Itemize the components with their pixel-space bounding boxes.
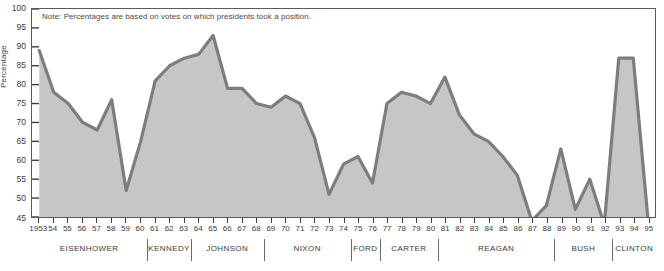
x-axis-tick-label-62: 62 — [165, 225, 174, 233]
y-axis-tick-label-80: 80 — [17, 80, 26, 89]
x-axis-tick-mark — [300, 218, 301, 223]
x-axis-tick-mark — [591, 218, 592, 223]
x-axis-tick-label-66: 66 — [223, 225, 232, 233]
president-term-divider — [612, 239, 613, 261]
president-label-bush: BUSH — [571, 244, 595, 253]
x-axis-tick-label-82: 82 — [455, 225, 464, 233]
x-axis-tick-mark — [373, 218, 374, 223]
x-axis-tick-mark — [634, 218, 635, 223]
x-axis-tick-mark — [67, 218, 68, 223]
x-axis-tick-label-64: 64 — [194, 225, 203, 233]
x-axis-tick-label-56: 56 — [77, 225, 86, 233]
president-label-johnson: JOHNSON — [206, 244, 248, 253]
y-axis-tick-label-70: 70 — [17, 118, 26, 127]
x-axis-tick-label-80: 80 — [426, 225, 435, 233]
y-axis-tick-label-75: 75 — [17, 99, 26, 108]
x-axis-tick-mark — [314, 218, 315, 223]
x-axis-tick-label-58: 58 — [106, 225, 115, 233]
x-axis-tick-mark — [518, 218, 519, 223]
president-label-nixon: NIXON — [293, 244, 320, 253]
x-axis-tick-label-77: 77 — [383, 225, 392, 233]
y-axis-tick-label-90: 90 — [17, 42, 26, 51]
x-axis-tick-mark — [431, 218, 432, 223]
x-axis-tick-label-92: 92 — [601, 225, 610, 233]
x-axis-tick-mark — [96, 218, 97, 223]
x-axis-tick-labels: 1953545556575859606162636465666768697071… — [31, 225, 656, 237]
y-axis-tick-label-55: 55 — [17, 175, 26, 184]
x-axis-tick-mark — [445, 218, 446, 223]
area-series-svg — [32, 9, 655, 217]
x-axis-tick-label-60: 60 — [136, 225, 145, 233]
x-axis-tick-label-55: 55 — [63, 225, 72, 233]
x-axis-tick-label-57: 57 — [92, 225, 101, 233]
x-axis-tick-label-1953: 1953 — [29, 225, 47, 233]
x-axis-tick-mark — [416, 218, 417, 223]
president-term-divider — [351, 239, 352, 261]
x-axis-tick-mark — [82, 218, 83, 223]
president-label-eisenhower: EISENHOWER — [60, 244, 119, 253]
x-axis-tick-label-68: 68 — [252, 225, 261, 233]
president-label-reagan: REAGAN — [478, 244, 514, 253]
x-axis-tick-label-79: 79 — [412, 225, 421, 233]
x-axis-tick-label-67: 67 — [237, 225, 246, 233]
x-axis-tick-mark — [271, 218, 272, 223]
president-term-divider — [191, 239, 192, 261]
x-axis-tick-mark — [38, 218, 39, 223]
y-axis-tick-label-45: 45 — [17, 214, 26, 223]
x-axis-tick-label-90: 90 — [572, 225, 581, 233]
x-axis-tick-label-87: 87 — [528, 225, 537, 233]
x-axis-tick-mark — [358, 218, 359, 223]
x-axis-tick-mark — [198, 218, 199, 223]
x-axis-tick-label-74: 74 — [339, 225, 348, 233]
y-axis-tick-label-50: 50 — [17, 194, 26, 203]
x-axis-tick-label-88: 88 — [543, 225, 552, 233]
y-axis-tick-label-65: 65 — [17, 137, 26, 146]
x-axis-tick-label-69: 69 — [266, 225, 275, 233]
x-axis-tick-mark — [649, 218, 650, 223]
x-axis-tick-label-78: 78 — [397, 225, 406, 233]
x-axis-tick-mark — [285, 218, 286, 223]
y-axis-tick-label-100: 100 — [12, 4, 26, 13]
y-axis-tick-labels: 1009590858075706560555045 — [0, 0, 26, 220]
x-axis-tick-mark — [620, 218, 621, 223]
x-axis-tick-mark — [562, 218, 563, 223]
presidential-success-rate-chart: Percentage 1009590858075706560555045 Not… — [0, 0, 664, 271]
x-axis-tick-mark — [242, 218, 243, 223]
x-axis-tick-mark — [125, 218, 126, 223]
x-axis-tick-mark — [387, 218, 388, 223]
x-axis-tick-label-85: 85 — [499, 225, 508, 233]
x-axis-tick-mark — [402, 218, 403, 223]
plot-area — [31, 8, 656, 218]
x-axis-tick-label-54: 54 — [48, 225, 57, 233]
president-label-carter: CARTER — [391, 244, 426, 253]
x-axis-tick-label-86: 86 — [513, 225, 522, 233]
x-axis-tick-label-83: 83 — [470, 225, 479, 233]
x-axis-tick-mark — [256, 218, 257, 223]
president-label-ford: FORD — [353, 244, 377, 253]
x-axis-tick-label-93: 93 — [615, 225, 624, 233]
president-term-divider — [264, 239, 265, 261]
president-term-band: EISENHOWERKENNEDYJOHNSONNIXONFORDCARTERR… — [31, 239, 656, 265]
x-axis-tick-label-84: 84 — [484, 225, 493, 233]
y-axis-tick-marks — [32, 9, 39, 217]
x-axis-tick-mark — [155, 218, 156, 223]
x-axis-tick-label-73: 73 — [325, 225, 334, 233]
president-label-clinton: CLINTON — [615, 244, 653, 253]
x-axis-tick-label-72: 72 — [310, 225, 319, 233]
x-axis-tick-mark — [213, 218, 214, 223]
y-axis-tick-label-85: 85 — [17, 61, 26, 70]
x-axis-tick-label-81: 81 — [441, 225, 450, 233]
x-axis-tick-label-95: 95 — [644, 225, 653, 233]
x-axis-tick-mark — [329, 218, 330, 223]
chart-note: Note: Percentages are based on votes on … — [42, 12, 311, 21]
x-axis-tick-label-75: 75 — [354, 225, 363, 233]
x-axis-tick-mark — [460, 218, 461, 223]
x-axis-tick-mark — [503, 218, 504, 223]
president-term-divider — [438, 239, 439, 261]
x-axis-tick-label-59: 59 — [121, 225, 130, 233]
x-axis-tick-mark — [53, 218, 54, 223]
x-axis-tick-label-91: 91 — [586, 225, 595, 233]
x-axis-tick-mark — [474, 218, 475, 223]
x-axis-tick-label-71: 71 — [295, 225, 304, 233]
x-axis-tick-label-61: 61 — [150, 225, 159, 233]
